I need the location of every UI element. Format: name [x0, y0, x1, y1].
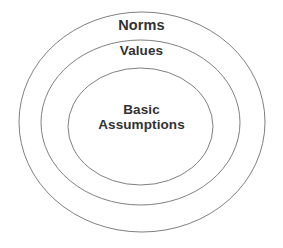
layer-label-values: Values	[0, 44, 283, 59]
layer-label-basic-assumptions-line-1: Basic	[0, 103, 283, 118]
layer-label-norms: Norms	[0, 18, 283, 34]
layer-label-basic-assumptions: Basic Assumptions	[0, 103, 283, 132]
layer-label-basic-assumptions-line-2: Assumptions	[0, 118, 283, 133]
culture-layers-diagram: Norms Values Basic Assumptions	[0, 0, 283, 248]
